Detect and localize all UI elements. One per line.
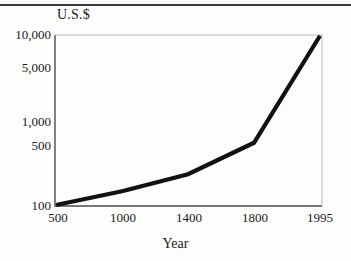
data-series-line bbox=[56, 36, 320, 205]
x-tick-label: 500 bbox=[48, 210, 68, 226]
y-tick-label: 10,000 bbox=[15, 27, 54, 43]
x-tick-label: 1000 bbox=[110, 210, 136, 226]
x-tick-label: 1400 bbox=[176, 210, 202, 226]
chart-figure: U.S.$ 10,000 5,000 1,000 500 100 500 100… bbox=[0, 0, 351, 261]
axis-frame bbox=[55, 35, 322, 206]
x-axis-title: Year bbox=[0, 236, 351, 252]
x-tick-label: 1995 bbox=[307, 210, 333, 226]
y-tick-label: 5,000 bbox=[22, 60, 54, 76]
y-tick-label: 500 bbox=[32, 138, 55, 154]
x-tick-label: 1800 bbox=[242, 210, 268, 226]
y-tick-label: 1,000 bbox=[22, 114, 54, 130]
